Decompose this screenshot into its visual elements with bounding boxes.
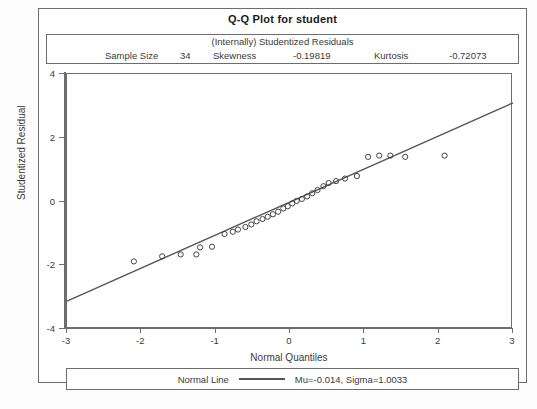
data-point	[442, 153, 447, 158]
y-axis: -4-2024	[64, 72, 66, 329]
data-point	[197, 245, 202, 250]
plot-area	[66, 73, 512, 328]
statistics-panel: (Internally) Studentized Residuals Sampl…	[46, 34, 519, 64]
sample-size-value: 34	[180, 50, 191, 61]
data-point	[209, 244, 214, 249]
data-point	[235, 227, 240, 232]
legend-line-swatch	[239, 378, 285, 380]
data-point	[270, 212, 275, 217]
skewness-value: -0.19819	[293, 50, 331, 61]
data-point	[230, 229, 235, 234]
skewness-label: Skewness	[213, 50, 256, 61]
x-axis-tick-label: 0	[286, 335, 291, 346]
data-point	[178, 252, 183, 257]
data-point	[260, 216, 265, 221]
y-axis-tick-label: 2	[50, 131, 55, 142]
y-axis-tick: 0	[59, 201, 64, 202]
data-point	[254, 219, 259, 224]
legend-series-label: Normal Line	[178, 374, 229, 385]
qq-plot-screenshot: Q-Q Plot for student (Internally) Studen…	[0, 0, 537, 409]
legend-params-label: Mu=-0.014, Sigma=1.0033	[295, 374, 408, 385]
x-axis-tick	[289, 328, 290, 333]
legend: Normal Line Mu=-0.014, Sigma=1.0033	[66, 368, 519, 390]
x-axis-tick-label: 2	[435, 335, 440, 346]
x-axis-tick-label: -3	[62, 335, 70, 346]
y-axis-tick: 2	[59, 137, 64, 138]
y-axis-tick-label: -4	[47, 323, 55, 334]
y-axis-tick: -4	[59, 328, 64, 329]
x-axis: -3-2-10123	[66, 328, 513, 329]
x-axis-tick	[66, 328, 67, 333]
data-point	[403, 154, 408, 159]
y-axis-tick-label: -2	[47, 259, 55, 270]
data-point	[276, 209, 281, 214]
legend-content: Normal Line Mu=-0.014, Sigma=1.0033	[67, 369, 518, 389]
statistics-heading: (Internally) Studentized Residuals	[47, 36, 518, 47]
data-point	[131, 259, 136, 264]
data-point	[377, 153, 382, 158]
x-axis-tick-label: 3	[509, 335, 514, 346]
data-point	[243, 224, 248, 229]
data-point	[265, 214, 270, 219]
sample-size-label: Sample Size	[105, 50, 158, 61]
y-axis-title: Studentized Residual	[16, 105, 27, 200]
x-axis-tick	[438, 328, 439, 333]
x-axis-tick	[512, 328, 513, 333]
data-point	[249, 222, 254, 227]
x-axis-tick	[215, 328, 216, 333]
y-axis-tick: 4	[59, 73, 64, 74]
page-title: Q-Q Plot for student	[38, 13, 527, 25]
data-point	[222, 231, 227, 236]
x-axis-tick-label: -2	[136, 335, 144, 346]
y-axis-tick-label: 4	[50, 68, 55, 79]
plot-canvas	[66, 73, 514, 330]
kurtosis-label: Kurtosis	[374, 50, 408, 61]
x-axis-tick-label: 1	[361, 335, 366, 346]
x-axis-title: Normal Quantiles	[66, 352, 512, 363]
y-axis-tick-label: 0	[50, 195, 55, 206]
y-axis-tick: -2	[59, 264, 64, 265]
x-axis-tick-label: -1	[210, 335, 218, 346]
kurtosis-value: -0.72073	[449, 50, 487, 61]
x-axis-tick	[363, 328, 364, 333]
x-axis-tick	[140, 328, 141, 333]
data-point	[194, 252, 199, 257]
data-point	[365, 154, 370, 159]
data-point	[354, 173, 359, 178]
